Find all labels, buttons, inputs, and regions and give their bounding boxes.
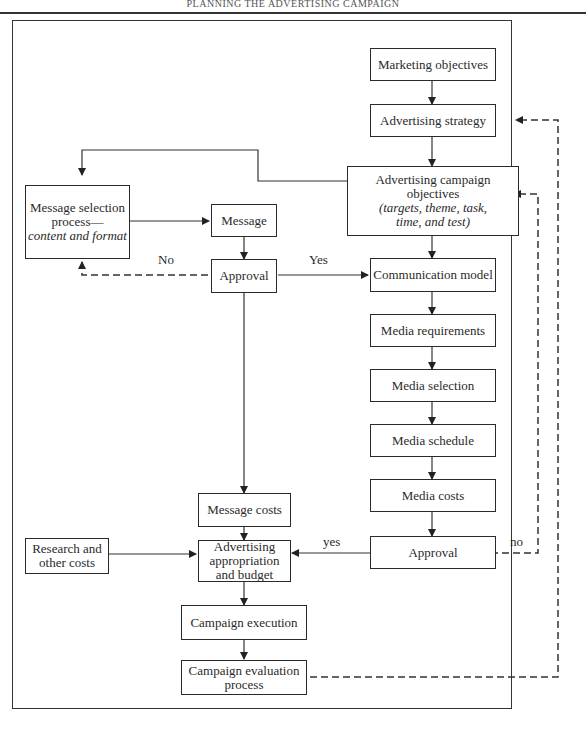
node-label: Communication model bbox=[373, 268, 493, 282]
node-label: process— bbox=[52, 215, 104, 229]
node-sublabel: time, and test) bbox=[396, 215, 470, 229]
node-label: Advertising bbox=[214, 540, 275, 554]
node-label: Message costs bbox=[207, 503, 282, 517]
node-campaign-objectives: Advertising campaign objectives (targets… bbox=[347, 166, 519, 236]
node-research-costs: Research and other costs bbox=[25, 538, 109, 574]
node-marketing-objectives: Marketing objectives bbox=[370, 48, 496, 81]
node-appropriation: Advertising appropriation and budget bbox=[198, 540, 291, 582]
node-label: Advertising campaign objectives bbox=[348, 173, 518, 201]
node-media-requirements: Media requirements bbox=[370, 314, 496, 347]
node-label: process bbox=[225, 678, 264, 692]
node-label: Advertising strategy bbox=[380, 114, 486, 128]
node-label: Media requirements bbox=[381, 324, 485, 338]
node-label: and budget bbox=[216, 568, 273, 582]
node-label: Campaign execution bbox=[190, 616, 297, 630]
edge-label-yes-lower: yes bbox=[323, 534, 340, 550]
node-label: Marketing objectives bbox=[378, 58, 488, 72]
node-media-schedule: Media schedule bbox=[370, 424, 496, 457]
node-approval-media: Approval bbox=[370, 536, 496, 569]
node-media-selection: Media selection bbox=[370, 369, 496, 402]
node-media-costs: Media costs bbox=[370, 479, 496, 512]
node-label: other costs bbox=[39, 556, 95, 570]
node-label: appropriation bbox=[209, 554, 279, 568]
node-advertising-strategy: Advertising strategy bbox=[370, 104, 496, 137]
node-sublabel: (targets, theme, task, bbox=[379, 201, 487, 215]
node-label: Message bbox=[221, 214, 267, 228]
node-label: Approval bbox=[408, 546, 457, 560]
node-communication-model: Communication model bbox=[370, 258, 496, 292]
edge-label-yes: Yes bbox=[309, 252, 328, 268]
edge-label-no-lower: no bbox=[510, 534, 523, 550]
node-label: Media schedule bbox=[392, 434, 474, 448]
node-message-costs: Message costs bbox=[198, 493, 291, 527]
node-campaign-execution: Campaign execution bbox=[181, 605, 307, 640]
node-sublabel: content and format bbox=[28, 229, 127, 243]
node-message-selection: Message selection process— content and f… bbox=[25, 185, 130, 259]
node-label: Media costs bbox=[402, 489, 464, 503]
node-campaign-evaluation: Campaign evaluation process bbox=[181, 660, 307, 695]
node-label: Media selection bbox=[392, 379, 475, 393]
edge-label-no: No bbox=[158, 252, 174, 268]
node-label: Research and bbox=[32, 542, 102, 556]
node-label: Campaign evaluation bbox=[189, 664, 300, 678]
node-label: Message selection bbox=[30, 201, 125, 215]
node-approval-message: Approval bbox=[211, 259, 277, 293]
node-message: Message bbox=[211, 204, 277, 237]
node-label: Approval bbox=[219, 269, 268, 283]
